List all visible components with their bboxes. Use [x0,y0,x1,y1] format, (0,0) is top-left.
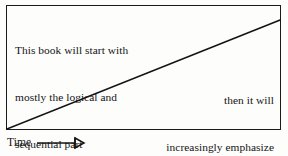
figure-canvas: This book will start with mostly the log… [0,0,288,156]
right-arrow-icon [37,136,89,150]
annotation-early-line-1: This book will start with [15,43,128,59]
x-axis-label-row: Time [7,133,89,153]
annotation-late-line-1: then it will [166,93,274,109]
annotation-late-line-2: increasingly emphasize [166,140,274,156]
x-axis-label: Time [7,136,37,150]
annotation-early-line-2: mostly the logical and [15,90,128,106]
annotation-late: then it will increasingly emphasize the … [166,62,274,156]
